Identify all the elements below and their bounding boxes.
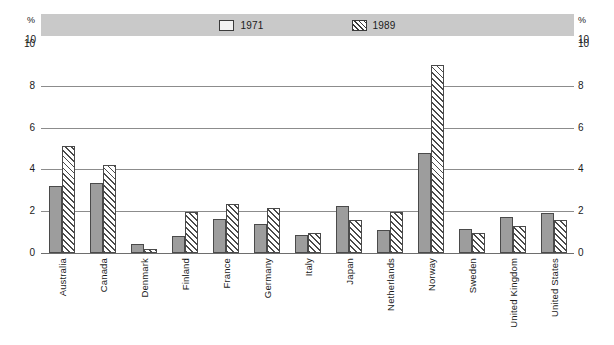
bar-1971-united-kingdom[interactable] — [500, 217, 513, 253]
bar-1971-finland[interactable] — [172, 236, 185, 253]
bar-1989-denmark[interactable] — [144, 249, 157, 253]
x-axis-label-australia: Australia — [41, 256, 82, 342]
y-tick-right-4: 4 — [578, 163, 600, 174]
bar-1989-japan[interactable] — [349, 220, 362, 253]
y-tick-left-8: 8 — [13, 80, 35, 91]
y-tick-left-0: 0 — [13, 247, 35, 258]
bar-1989-united-states[interactable] — [554, 220, 567, 253]
y-tick-right-0: 0 — [578, 247, 600, 258]
bar-group — [492, 44, 533, 253]
chart-figure: 1971 1989 % % 10 10 0246810 0246810 Aust… — [0, 0, 614, 345]
bar-1971-united-states[interactable] — [541, 213, 554, 253]
bar-1989-netherlands[interactable] — [390, 212, 403, 253]
legend-label-1989: 1989 — [373, 20, 396, 31]
bar-1971-germany[interactable] — [254, 224, 267, 253]
x-axis-label-united-kingdom: United Kingdom — [492, 256, 533, 342]
x-axis-label-sweden: Sweden — [451, 256, 492, 342]
x-axis-label-text: Germany — [261, 258, 272, 298]
x-axis-label-text: United States — [548, 258, 559, 317]
x-axis-label-norway: Norway — [410, 256, 451, 342]
x-axis-label-japan: Japan — [328, 256, 369, 342]
x-axis-label-italy: Italy — [287, 256, 328, 342]
bar-1989-finland[interactable] — [185, 212, 198, 253]
bar-group — [410, 44, 451, 253]
bar-group — [246, 44, 287, 253]
bar-group — [533, 44, 574, 253]
bar-1971-sweden[interactable] — [459, 229, 472, 253]
bar-group — [287, 44, 328, 253]
axis-unit-left: % — [27, 15, 35, 25]
x-axis-label-text: Canada — [97, 258, 108, 292]
bar-1971-netherlands[interactable] — [377, 230, 390, 253]
legend-entry-1989[interactable]: 1989 — [352, 20, 396, 31]
y-tick-left-2: 2 — [13, 205, 35, 216]
x-axis-label-text: Norway — [425, 258, 436, 291]
bar-1989-united-kingdom[interactable] — [513, 226, 526, 253]
axis-unit-right: % — [578, 15, 586, 25]
y-tick-right-6: 6 — [578, 122, 600, 133]
legend-swatch-hatched-icon — [352, 20, 367, 31]
bar-1971-denmark[interactable] — [131, 244, 144, 253]
bar-1971-norway[interactable] — [418, 153, 431, 253]
bar-1989-italy[interactable] — [308, 233, 321, 253]
x-axis-label-france: France — [205, 256, 246, 342]
x-axis-category-labels: AustraliaCanadaDenmarkFinlandFranceGerma… — [41, 256, 574, 342]
x-axis-label-text: Australia — [56, 258, 67, 296]
y-tick-left-4: 4 — [13, 163, 35, 174]
x-axis-label-denmark: Denmark — [123, 256, 164, 342]
x-axis-label-text: United Kingdom — [507, 258, 518, 328]
x-axis-label-canada: Canada — [82, 256, 123, 342]
bar-group — [328, 44, 369, 253]
bar-group — [123, 44, 164, 253]
legend-swatch-solid-icon — [219, 20, 234, 31]
bar-group — [164, 44, 205, 253]
bar-1989-france[interactable] — [226, 204, 239, 253]
bar-group — [451, 44, 492, 253]
bar-1971-australia[interactable] — [49, 186, 62, 253]
bar-1971-france[interactable] — [213, 219, 226, 253]
bar-groups — [41, 44, 574, 253]
bar-1971-italy[interactable] — [295, 235, 308, 253]
y-tick-left-6: 6 — [13, 122, 35, 133]
x-axis-label-text: Italy — [302, 258, 313, 276]
x-axis-label-text: Finland — [179, 258, 190, 290]
bar-1989-canada[interactable] — [103, 165, 116, 253]
y-tick-right-10: 10 — [578, 38, 600, 49]
x-axis-label-text: France — [220, 258, 231, 288]
bar-1971-canada[interactable] — [90, 183, 103, 253]
bar-group — [82, 44, 123, 253]
bar-1989-sweden[interactable] — [472, 233, 485, 253]
y-tick-right-2: 2 — [578, 205, 600, 216]
bar-group — [369, 44, 410, 253]
x-axis-label-finland: Finland — [164, 256, 205, 342]
chart-legend: 1971 1989 — [41, 14, 574, 36]
x-axis-label-germany: Germany — [246, 256, 287, 342]
x-axis-label-text: Netherlands — [384, 258, 395, 311]
legend-label-1971: 1971 — [240, 20, 263, 31]
bar-1971-japan[interactable] — [336, 206, 349, 253]
x-axis-label-netherlands: Netherlands — [369, 256, 410, 342]
x-axis-label-text: Sweden — [466, 258, 477, 293]
x-axis-label-united-states: United States — [533, 256, 574, 342]
bar-group — [41, 44, 82, 253]
gridline-0 — [41, 253, 574, 254]
legend-entry-1971[interactable]: 1971 — [219, 20, 263, 31]
y-tick-right-8: 8 — [578, 80, 600, 91]
x-axis-label-text: Japan — [343, 258, 354, 285]
bar-1989-norway[interactable] — [431, 65, 444, 253]
plot-area: 0246810 0246810 — [41, 44, 574, 253]
y-tick-left-10: 10 — [13, 38, 35, 49]
bar-1989-germany[interactable] — [267, 208, 280, 253]
bar-1989-australia[interactable] — [62, 146, 75, 253]
x-axis-label-text: Denmark — [138, 258, 149, 298]
bar-group — [205, 44, 246, 253]
